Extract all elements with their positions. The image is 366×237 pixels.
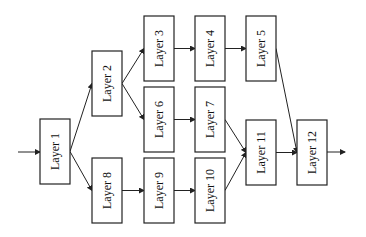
layer-label: Layer 5 [254, 30, 268, 67]
layer-node-l12: Layer 12 [297, 120, 327, 185]
layer-label: Layer 2 [100, 65, 114, 102]
layer-label: Layer 3 [152, 30, 166, 67]
layer-node-l9: Layer 9 [144, 158, 174, 223]
layer-node-l4: Layer 4 [195, 16, 225, 81]
layer-label: Layer 12 [305, 131, 319, 174]
edge-arrow-l7-l11 [225, 120, 246, 153]
layer-label: Layer 10 [203, 169, 217, 212]
layer-node-l1: Layer 1 [40, 119, 70, 184]
layer-label: Layer 6 [152, 101, 166, 138]
layer-node-l2: Layer 2 [92, 51, 122, 116]
edge-arrow-l1-l8 [70, 152, 92, 191]
layer-node-l11: Layer 11 [246, 120, 276, 185]
layer-node-l8: Layer 8 [92, 158, 122, 223]
edge-arrow-l5-l12 [276, 49, 297, 153]
layer-label: Layer 4 [203, 30, 217, 67]
edge-arrow-l10-l11 [225, 153, 246, 191]
layer-node-l7: Layer 7 [195, 87, 225, 152]
layer-node-l3: Layer 3 [144, 16, 174, 81]
network-diagram: Layer 1Layer 2Layer 3Layer 4Layer 5Layer… [0, 0, 366, 237]
layer-node-l10: Layer 10 [195, 158, 225, 223]
layer-node-l6: Layer 6 [144, 87, 174, 152]
edge-arrow-l1-l2 [70, 84, 92, 152]
edge-arrow-l2-l6 [122, 84, 144, 120]
layer-label: Layer 8 [100, 172, 114, 209]
layer-label: Layer 1 [48, 133, 62, 170]
layer-label: Layer 7 [203, 101, 217, 138]
layer-label: Layer 9 [152, 172, 166, 209]
layer-label: Layer 11 [254, 131, 268, 174]
edge-arrow-l2-l3 [122, 49, 144, 84]
layer-node-l5: Layer 5 [246, 16, 276, 81]
